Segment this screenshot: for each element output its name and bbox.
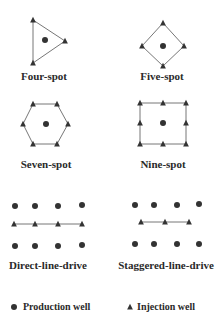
- production-well-icon: [132, 241, 138, 247]
- production-well-icon: [42, 37, 48, 43]
- production-well-icon: [12, 203, 18, 209]
- production-well-icon: [132, 202, 138, 208]
- production-well-icon: [196, 201, 202, 207]
- injection-well-icon: [183, 120, 189, 126]
- injection-well-icon: [65, 121, 71, 127]
- production-well-icon: [55, 243, 61, 249]
- production-well-icon: [174, 202, 180, 208]
- production-well-icon: [160, 43, 166, 49]
- production-well-icon: [12, 243, 18, 249]
- label-staggered-line-drive: Staggered-line-drive: [118, 259, 214, 271]
- legend-production-well-icon: [11, 304, 17, 310]
- production-well-icon: [160, 120, 166, 126]
- injection-well-icon: [30, 60, 36, 66]
- legend-injection-label: Injection well: [137, 301, 195, 312]
- production-well-icon: [79, 202, 85, 208]
- legend-injection-well-icon: [127, 304, 133, 310]
- label-seven-spot: Seven-spot: [21, 158, 72, 170]
- injection-well-icon: [137, 120, 143, 126]
- label-nine-spot: Nine-spot: [140, 158, 185, 170]
- production-well-icon: [32, 203, 38, 209]
- injection-well-icon: [62, 38, 68, 44]
- well-pattern-diagram: Four-spot Five-spot Seven-spot Nine-spot…: [0, 0, 220, 327]
- injection-well-icon: [160, 20, 166, 26]
- production-well-icon: [174, 241, 180, 247]
- label-five-spot: Five-spot: [140, 70, 183, 82]
- production-well-icon: [196, 241, 202, 247]
- production-well-icon: [79, 242, 85, 248]
- legend-production-label: Production well: [23, 301, 90, 312]
- label-direct-line-drive: Direct-line-drive: [9, 259, 87, 271]
- injection-well-icon: [20, 121, 26, 127]
- production-well-icon: [151, 202, 157, 208]
- label-four-spot: Four-spot: [21, 70, 67, 82]
- production-well-icon: [32, 243, 38, 249]
- production-well-icon: [43, 121, 49, 127]
- production-well-icon: [55, 203, 61, 209]
- four-spot-outline: [33, 20, 65, 63]
- production-well-icon: [151, 241, 157, 247]
- injection-well-icon: [30, 17, 36, 23]
